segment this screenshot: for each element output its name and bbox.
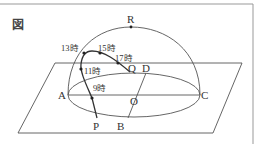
zenith-dot xyxy=(130,26,133,29)
point-label-d: D xyxy=(142,62,150,74)
celestial-sphere-diagram: 図 9時 11時 13時 15時 17時 R A C O P B Q D xyxy=(0,0,259,144)
point-label-o: O xyxy=(130,95,138,107)
time-label-15h: 15時 xyxy=(98,43,116,53)
point-label-a: A xyxy=(58,89,66,101)
sun-position-9h xyxy=(90,96,93,99)
point-label-r: R xyxy=(127,13,135,25)
point-label-b: B xyxy=(117,120,124,132)
point-label-q: Q xyxy=(128,62,136,74)
sun-position-11h xyxy=(79,67,82,70)
sun-position-13h xyxy=(82,51,85,54)
time-label-11h: 11時 xyxy=(84,66,101,76)
celestial-dome-arc xyxy=(68,27,200,95)
point-label-c: C xyxy=(201,89,208,101)
time-label-13h: 13時 xyxy=(61,43,79,53)
figure-label: 図 xyxy=(12,18,24,32)
time-label-9h: 9時 xyxy=(93,83,106,93)
point-label-p: P xyxy=(93,120,99,132)
